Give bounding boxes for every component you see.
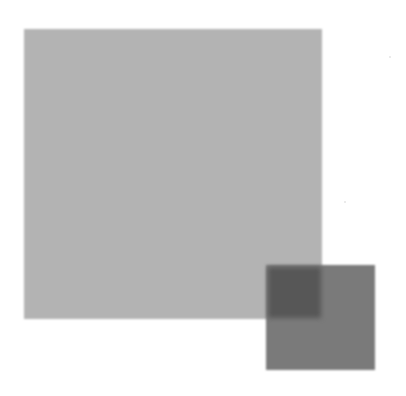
overlap-region <box>268 267 321 318</box>
figure-canvas <box>0 0 406 396</box>
noise-speck <box>389 56 391 58</box>
noise-speck <box>344 201 346 203</box>
